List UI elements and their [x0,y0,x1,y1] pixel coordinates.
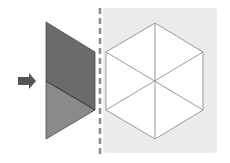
arrow-right-icon [18,73,36,89]
folded-piece [46,22,95,139]
diagram-canvas [0,0,230,163]
